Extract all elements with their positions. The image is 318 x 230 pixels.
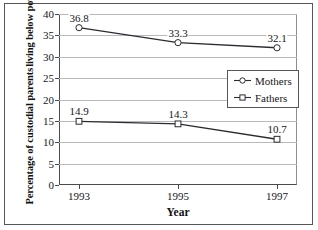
data-label-fathers-1995: 14.3 (167, 108, 188, 120)
legend: Mothers Fathers (227, 70, 299, 108)
y-tick-label: 15 (43, 115, 54, 127)
data-label-mothers-1997: 32.1 (266, 32, 287, 44)
y-axis-title-line-1: Percentage of custodial parents (24, 68, 36, 205)
data-point-mothers-1995[interactable] (175, 40, 181, 46)
y-tick-mark (55, 185, 59, 186)
data-label-mothers-1993: 36.8 (68, 12, 89, 24)
data-label-fathers-1993: 14.9 (68, 105, 89, 117)
figure: Percentage of custodial parents living b… (0, 0, 318, 230)
x-tick-label: 1995 (167, 190, 189, 202)
legend-label-fathers: Fathers (255, 92, 287, 104)
open-square-marker-icon (234, 92, 251, 103)
x-tick-label: 1997 (266, 190, 288, 202)
data-point-fathers-1997[interactable] (274, 136, 280, 142)
legend-item-mothers[interactable]: Mothers (234, 74, 298, 87)
y-tick-label: 35 (43, 29, 54, 41)
y-tick-label: 25 (43, 72, 54, 84)
open-circle-marker-icon (234, 75, 251, 86)
y-axis-title-line-2: living below poverty level (24, 0, 36, 67)
data-point-fathers-1995[interactable] (175, 121, 181, 127)
legend-item-fathers[interactable]: Fathers (234, 91, 298, 104)
x-tick-mark (178, 185, 179, 189)
y-tick-label: 40 (43, 8, 54, 20)
data-label-fathers-1997: 10.7 (266, 123, 287, 135)
x-axis-title: Year (59, 206, 297, 218)
legend-label-mothers: Mothers (255, 75, 292, 87)
data-point-mothers-1993[interactable] (76, 25, 82, 31)
y-tick-label: 20 (43, 94, 54, 106)
plot-area: 0510152025303540 199319951997 36.833.332… (59, 14, 297, 185)
y-tick-label: 30 (43, 51, 54, 63)
x-tick-mark (277, 185, 278, 189)
data-point-fathers-1993[interactable] (76, 118, 82, 124)
y-tick-label: 0 (49, 179, 55, 191)
x-tick-label: 1993 (68, 190, 90, 202)
x-tick-mark (79, 185, 80, 189)
y-tick-label: 5 (49, 158, 55, 170)
data-point-mothers-1997[interactable] (274, 45, 280, 51)
data-label-mothers-1995: 33.3 (167, 27, 188, 39)
y-tick-label: 10 (43, 136, 54, 148)
